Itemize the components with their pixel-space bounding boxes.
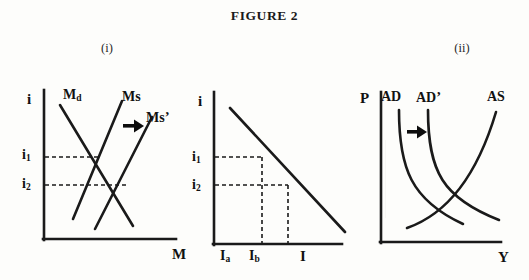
y-tick-i2-sub: 2 xyxy=(196,183,201,193)
figure-container: FIGURE 2 (i) i Md Ms Ms’ xyxy=(0,0,529,280)
y-tick-i1-sub: 1 xyxy=(26,153,31,163)
x-tick-label-ia: Ia xyxy=(220,249,230,265)
aggregate-demand-supply-plot xyxy=(355,0,529,280)
prime-mark: ’ xyxy=(165,109,170,125)
y-tick-label-i2: i2 xyxy=(22,177,31,193)
y-axis-label: P xyxy=(360,91,369,106)
money-market-plot xyxy=(0,0,195,280)
aggregate-demand-shifted-label-base: AD xyxy=(416,90,436,105)
aggregate-demand-shifted-curve xyxy=(428,110,499,220)
money-demand-label: Md xyxy=(63,88,82,104)
panel-investment-demand: (ii) i i1 i2 Ia Ib I xyxy=(190,0,360,280)
x-axis-label: M xyxy=(172,247,186,262)
x-tick-ib-sub: b xyxy=(254,254,259,264)
y-tick-label-i1: i1 xyxy=(192,150,201,166)
aggregate-supply-label: AS xyxy=(487,90,505,104)
money-demand-label-sub: d xyxy=(76,93,81,103)
y-tick-i2-sub: 2 xyxy=(26,182,31,192)
panel-money-market: (i) i Md Ms Ms’ i1 i2 M xyxy=(0,0,195,280)
shift-arrow-icon xyxy=(123,120,144,133)
money-supply-shifted-label: Ms’ xyxy=(146,110,170,125)
money-supply-curve xyxy=(73,101,122,219)
x-tick-label-ib: Ib xyxy=(249,249,260,265)
money-demand-label-base: M xyxy=(63,87,76,102)
y-axis-label: i xyxy=(27,92,31,107)
x-tick-ia-sub: a xyxy=(225,254,230,264)
prime-mark: ’ xyxy=(436,89,441,105)
money-supply-shifted-label-base: Ms xyxy=(146,110,165,125)
panel-aggregate-demand-supply: (iii) P AD AD’ AS Y xyxy=(355,0,529,280)
x-axis-label: Y xyxy=(498,250,509,265)
aggregate-demand-curve xyxy=(399,110,463,224)
aggregate-demand-label: AD xyxy=(381,90,401,104)
y-axis-label: i xyxy=(198,94,202,109)
y-tick-label-i2: i2 xyxy=(192,178,201,194)
x-axis-label: I xyxy=(300,249,306,264)
y-tick-label-i1: i1 xyxy=(22,148,31,164)
shift-arrow-icon xyxy=(407,126,427,139)
y-tick-i1-sub: 1 xyxy=(196,155,201,165)
money-supply-label: Ms xyxy=(122,90,141,104)
aggregate-demand-shifted-label: AD’ xyxy=(416,90,441,105)
investment-demand-plot xyxy=(190,0,360,280)
